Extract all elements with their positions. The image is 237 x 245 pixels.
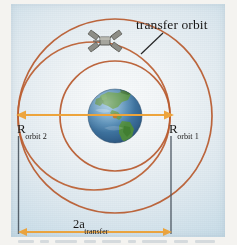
transfer-orbit-label: transfer orbit [136,18,208,32]
semi-major-axis-subscript: transfer [84,227,108,236]
r-orbit-1-subscript: orbit 1 [177,132,199,141]
r-orbit-2-subscript: orbit 2 [25,132,47,141]
semi-major-axis-label: 2atransfer [73,218,109,233]
satellite [88,30,122,52]
figure-root: transfer orbit Rorbit 2 Rorbit 1 2atrans… [0,0,237,245]
arrowhead-bottom-left [18,228,27,236]
scan-residue-artifact [14,238,224,245]
r-orbit-2-label: Rorbit 2 [17,122,47,139]
transfer-orbit-text: transfer orbit [136,17,208,32]
r-orbit-1-label: Rorbit 1 [169,122,199,139]
transfer-orbit-leader-line [141,33,163,54]
